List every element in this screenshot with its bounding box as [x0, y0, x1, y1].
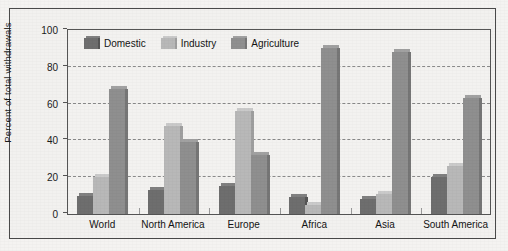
- bar-side-shadow: [479, 98, 482, 214]
- group-separator-4: [351, 208, 352, 214]
- bar-face: [148, 190, 164, 214]
- y-tick-label-80: 80: [18, 62, 58, 73]
- bar-face: [305, 205, 321, 214]
- bar-face: [376, 194, 392, 214]
- bar-side-shadow: [125, 89, 128, 214]
- bar-face: [77, 196, 93, 214]
- bar-industry-europe: [235, 111, 251, 214]
- x-label-north-america: North America: [141, 219, 204, 230]
- bar-face: [289, 197, 305, 214]
- legend-swatch-face: [161, 38, 175, 49]
- y-tick-label-20: 20: [18, 172, 58, 183]
- legend-swatch-domestic-icon: [84, 38, 98, 49]
- x-label-south-america: South America: [423, 219, 488, 230]
- x-label-world: World: [89, 219, 115, 230]
- bar-domestic-world: [77, 196, 93, 214]
- plot-area: DomesticIndustryAgriculture: [67, 29, 491, 215]
- bar-face: [321, 48, 337, 214]
- bar-industry-asia: [376, 194, 392, 214]
- group-separator-2: [209, 208, 210, 214]
- legend-swatch-side: [245, 38, 247, 49]
- x-label-asia: Asia: [375, 219, 394, 230]
- legend-swatch-agriculture-icon: [231, 38, 245, 49]
- bar-domestic-asia: [360, 199, 376, 214]
- y-tick-label-60: 60: [18, 99, 58, 110]
- legend-label-domestic: Domestic: [104, 38, 146, 49]
- bar-face: [392, 52, 408, 214]
- bar-domestic-north-america: [148, 190, 164, 214]
- bar-industry-north-america: [164, 126, 180, 214]
- y-axis-title: Percent of total withdrawals: [2, 0, 13, 198]
- group-separator-3: [280, 208, 281, 214]
- y-tick-label-100: 100: [18, 25, 58, 36]
- bar-face: [180, 142, 196, 214]
- bar-face: [93, 177, 109, 214]
- bar-agriculture-asia: [392, 52, 408, 214]
- x-label-africa: Africa: [302, 219, 328, 230]
- gridline-60: [68, 103, 490, 104]
- y-tick-label-0: 0: [18, 209, 58, 220]
- bar-industry-world: [93, 177, 109, 214]
- bar-agriculture-world: [109, 89, 125, 214]
- bar-face: [219, 186, 235, 214]
- bar-face: [360, 199, 376, 214]
- bar-face: [235, 111, 251, 214]
- gridline-40: [68, 139, 490, 140]
- bar-side-shadow: [408, 52, 411, 214]
- bar-side-shadow: [337, 48, 340, 214]
- bar-industry-africa: [305, 205, 321, 214]
- bar-face: [251, 155, 267, 214]
- y-tick-label-40: 40: [18, 135, 58, 146]
- legend-label-industry: Industry: [181, 38, 217, 49]
- legend-item-industry: Industry: [161, 38, 217, 49]
- bar-face: [164, 126, 180, 214]
- bar-side-shadow: [267, 155, 270, 214]
- legend-label-agriculture: Agriculture: [251, 38, 299, 49]
- legend-swatch-side: [98, 38, 100, 49]
- bar-domestic-africa: [289, 197, 305, 214]
- legend-item-domestic: Domestic: [84, 38, 146, 49]
- gridline-80: [68, 66, 490, 67]
- bar-domestic-europe: [219, 186, 235, 214]
- legend-item-agriculture: Agriculture: [231, 38, 299, 49]
- bar-industry-south-america: [447, 166, 463, 214]
- bar-domestic-south-america: [431, 177, 447, 214]
- figure-border: Percent of total withdrawals 02040608010…: [9, 8, 496, 239]
- bar-face: [447, 166, 463, 214]
- bar-face: [109, 89, 125, 214]
- legend-swatch-face: [231, 38, 245, 49]
- x-label-europe: Europe: [228, 219, 260, 230]
- group-separator-5: [421, 208, 422, 214]
- gridline-20: [68, 176, 490, 177]
- bar-agriculture-africa: [321, 48, 337, 214]
- bar-side-shadow: [196, 142, 199, 214]
- legend-swatch-face: [84, 38, 98, 49]
- bar-face: [463, 98, 479, 214]
- bar-agriculture-north-america: [180, 142, 196, 214]
- legend-swatch-side: [175, 38, 177, 49]
- bar-face: [431, 177, 447, 214]
- bar-agriculture-south-america: [463, 98, 479, 214]
- group-separator-1: [139, 208, 140, 214]
- legend-swatch-industry-icon: [161, 38, 175, 49]
- bar-agriculture-europe: [251, 155, 267, 214]
- chart-figure: Percent of total withdrawals 02040608010…: [0, 0, 508, 251]
- chart-legend: DomesticIndustryAgriculture: [84, 38, 299, 49]
